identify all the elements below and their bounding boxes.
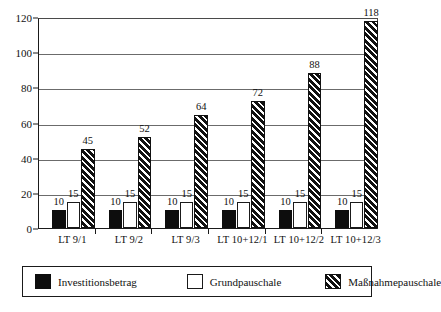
y-axis: 020406080100120 — [0, 18, 38, 229]
bar-ma-nahmepauschale: 52 — [138, 137, 152, 228]
y-tick-label: 80 — [21, 82, 32, 94]
bar-ma-nahmepauschale: 64 — [194, 115, 208, 228]
bar-value-label: 118 — [363, 8, 378, 19]
bar-ma-nahmepauschale: 118 — [364, 21, 378, 228]
legend-entry: Grundpauschale — [187, 267, 281, 296]
legend-swatch-icon — [35, 274, 51, 289]
bar-value-label: 10 — [54, 197, 65, 208]
bar-value-label: 72 — [253, 88, 264, 99]
legend-entry: Maßnahmepauschale — [325, 267, 441, 296]
bar-grundpauschale: 15 — [67, 202, 81, 228]
bar-value-label: 10 — [280, 197, 291, 208]
bar-ma-nahmepauschale: 45 — [81, 149, 95, 228]
x-axis-labels: LT 9/1LT 9/2LT 9/3LT 10+12/1LT 10+12/2LT… — [38, 234, 378, 250]
bar-value-label: 15 — [68, 189, 79, 200]
bar-group: 101572 — [209, 19, 266, 228]
bar-value-label: 15 — [238, 189, 249, 200]
bar-value-label: 10 — [337, 197, 348, 208]
bar-value-label: 15 — [351, 189, 362, 200]
y-tick-label: 0 — [27, 223, 33, 235]
x-tick-label: LT 9/3 — [171, 234, 199, 245]
y-tick-label: 60 — [21, 118, 32, 130]
y-tick-label: 40 — [21, 153, 32, 165]
x-tick-label: LT 9/2 — [115, 234, 143, 245]
bar-value-label: 15 — [125, 189, 136, 200]
bar-investitionsbetrag: 10 — [222, 210, 236, 228]
chart-legend: InvestitionsbetragGrundpauschaleMaßnahme… — [22, 266, 372, 297]
y-tick-label: 20 — [21, 188, 32, 200]
y-tick-label: 100 — [16, 47, 33, 59]
x-tick-label: LT 10+12/2 — [274, 234, 324, 245]
plot-area: 1015451015521015641015721015881015118 — [38, 18, 378, 229]
bar-ma-nahmepauschale: 88 — [308, 73, 322, 228]
bar-investitionsbetrag: 10 — [109, 210, 123, 228]
bar-group: 101552 — [96, 19, 153, 228]
bar-grundpauschale: 15 — [293, 202, 307, 228]
bar-investitionsbetrag: 10 — [52, 210, 66, 228]
bar-value-label: 10 — [224, 197, 235, 208]
y-tick-label: 120 — [16, 12, 33, 24]
bar-value-label: 15 — [181, 189, 192, 200]
legend-entry: Investitionsbetrag — [35, 267, 137, 296]
plot-wrap: 1015451015521015641015721015881015118 — [38, 18, 378, 229]
bar-investitionsbetrag: 10 — [279, 210, 293, 228]
bar-value-label: 52 — [139, 124, 150, 135]
bar-investitionsbetrag: 10 — [165, 210, 179, 228]
legend-swatch-icon — [187, 274, 203, 289]
x-tick-label: LT 10+12/3 — [330, 234, 380, 245]
legend-label: Investitionsbetrag — [58, 276, 137, 288]
bar-grundpauschale: 15 — [180, 202, 194, 228]
bar-value-label: 15 — [295, 189, 306, 200]
bar-grundpauschale: 15 — [123, 202, 137, 228]
bar-grundpauschale: 15 — [350, 202, 364, 228]
bar-grundpauschale: 15 — [237, 202, 251, 228]
bar-group: 101545 — [39, 19, 96, 228]
bar-group: 101564 — [152, 19, 209, 228]
bar-value-label: 10 — [167, 197, 178, 208]
bar-value-label: 45 — [83, 136, 94, 147]
bar-group: 101588 — [266, 19, 323, 228]
x-tick-label: LT 9/1 — [58, 234, 86, 245]
bar-ma-nahmepauschale: 72 — [251, 101, 265, 228]
bar-value-label: 64 — [196, 102, 207, 113]
bar-group: 1015118 — [322, 19, 379, 228]
legend-label: Maßnahmepauschale — [348, 276, 441, 288]
legend-label: Grundpauschale — [210, 276, 281, 288]
x-tick-label: LT 10+12/1 — [217, 234, 267, 245]
legend-swatch-icon — [325, 274, 341, 289]
bar-value-label: 88 — [309, 60, 320, 71]
bar-investitionsbetrag: 10 — [335, 210, 349, 228]
bar-value-label: 10 — [110, 197, 121, 208]
